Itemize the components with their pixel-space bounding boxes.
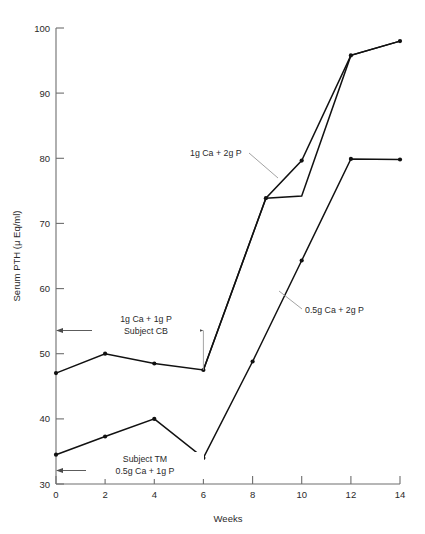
data-point — [251, 359, 255, 363]
data-point — [152, 417, 156, 421]
annotation-tm-period-line1: Subject TM — [123, 454, 167, 464]
x-tick-label-12: 12 — [346, 489, 357, 500]
data-point — [264, 196, 268, 200]
y-tick-label-50: 50 — [39, 348, 50, 359]
x-tick-label-4: 4 — [152, 489, 157, 500]
data-point — [300, 159, 304, 163]
chart-background — [0, 0, 425, 534]
chart-figure: 100 90 80 70 60 50 — [0, 0, 425, 534]
x-tick-label-8: 8 — [250, 489, 255, 500]
data-point — [152, 361, 156, 365]
y-tick-label-90: 90 — [39, 88, 50, 99]
y-tick-label-100: 100 — [34, 23, 50, 34]
data-point — [300, 258, 304, 262]
y-tick-label-80: 80 — [39, 153, 50, 164]
y-tick-label-40: 40 — [39, 413, 50, 424]
x-tick-label-2: 2 — [102, 489, 107, 500]
x-tick-label-14: 14 — [395, 489, 406, 500]
y-tick-label-60: 60 — [39, 283, 50, 294]
annotation-upper-callout-text: 1g Ca + 2g P — [190, 148, 242, 158]
data-point — [103, 434, 107, 438]
annotation-tm-period-line2: 0.5g Ca + 1g P — [116, 466, 175, 476]
x-axis-title: Weeks — [214, 513, 243, 524]
serum-pth-line-chart: 100 90 80 70 60 50 — [0, 0, 425, 534]
x-tick-label-0: 0 — [53, 489, 58, 500]
data-point — [349, 53, 353, 57]
y-axis-title: Serum PTH (μ Eq/ml) — [11, 211, 22, 302]
annotation-cb-period-line2: Subject CB — [124, 326, 168, 336]
data-point — [349, 157, 353, 161]
data-point — [54, 371, 58, 375]
annotation-cb-period-line1: 1g Ca + 1g P — [120, 314, 172, 324]
y-tick-label-30: 30 — [39, 479, 50, 490]
data-point — [103, 352, 107, 356]
x-tick-label-6: 6 — [201, 489, 206, 500]
data-point — [398, 39, 402, 43]
data-point — [398, 157, 402, 161]
y-tick-label-70: 70 — [39, 218, 50, 229]
x-tick-label-10: 10 — [296, 489, 307, 500]
annotation-lower-callout-text: 0.5g Ca + 2g P — [305, 305, 364, 315]
data-point — [54, 453, 58, 457]
